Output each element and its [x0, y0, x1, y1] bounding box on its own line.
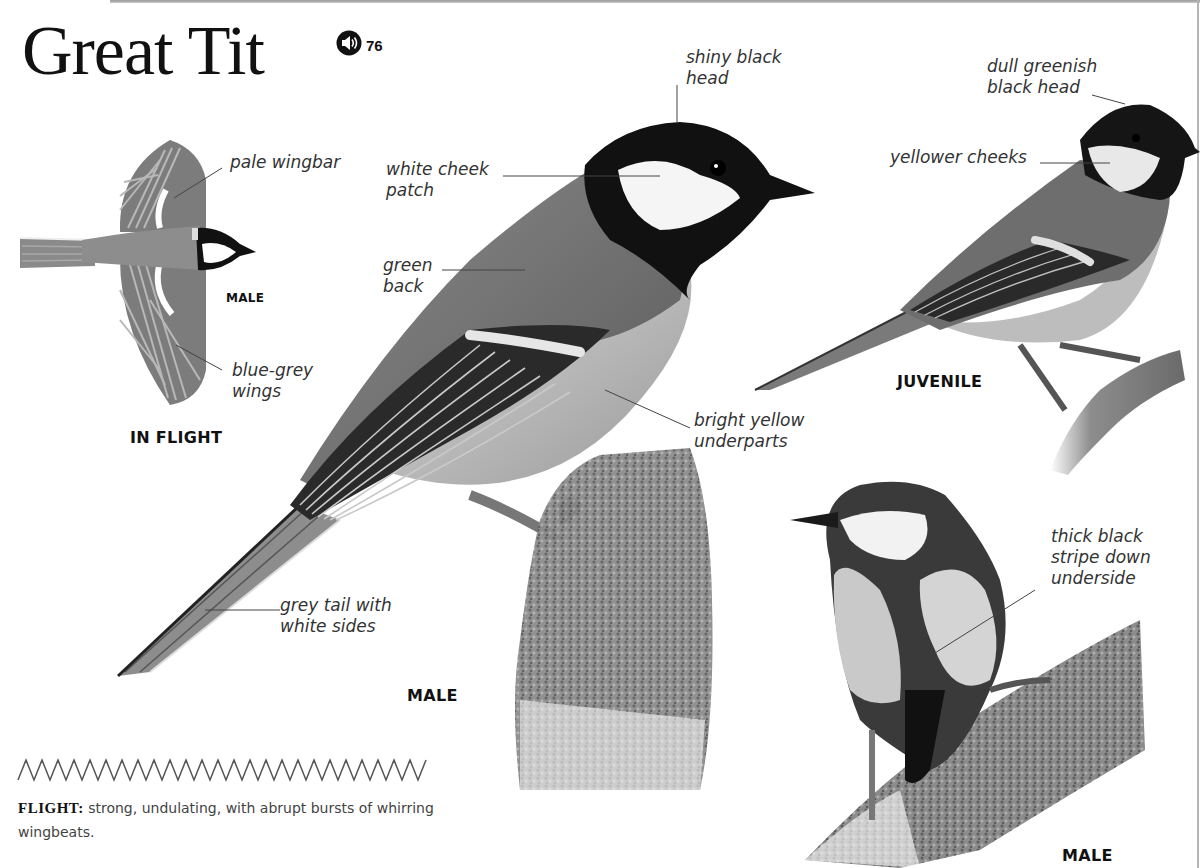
- flight-label: FLIGHT:: [18, 800, 84, 816]
- annotation-grey-tail: grey tail with white sides: [280, 595, 392, 637]
- caption-in-flight: IN FLIGHT: [130, 428, 222, 447]
- in-flight-sex-label: MALE: [226, 291, 264, 305]
- juvenile-branch: [1050, 350, 1185, 475]
- flight-description: FLIGHT: strong, undulating, with abrupt …: [18, 796, 458, 844]
- annotation-white-cheek-patch: white cheek patch: [386, 159, 489, 201]
- caption-male-side: MALE: [407, 686, 458, 705]
- annotation-blue-grey-wings: blue-grey wings: [232, 360, 313, 402]
- annotation-dull-greenish-black-head: dull greenish black head: [987, 56, 1097, 98]
- annotation-bright-yellow-underparts: bright yellow underparts: [694, 410, 804, 452]
- annotation-thick-black-stripe: thick black stripe down underside: [1051, 526, 1151, 589]
- annotation-yellower-cheeks: yellower cheeks: [890, 147, 1027, 168]
- annotation-green-back: green back: [383, 255, 432, 297]
- caption-male-front: MALE: [1062, 846, 1113, 865]
- annotation-shiny-black-head: shiny black head: [686, 47, 782, 89]
- caption-juvenile: JUVENILE: [897, 372, 982, 391]
- in-flight-bird-illustration: [20, 140, 256, 405]
- annotation-pale-wingbar: pale wingbar: [230, 152, 340, 173]
- zigzag-flight-pattern-icon: [18, 760, 426, 780]
